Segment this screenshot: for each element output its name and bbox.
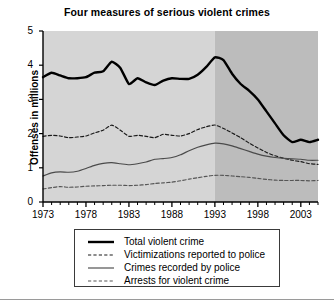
x-tick-label: 1978 — [66, 209, 106, 220]
legend-swatch-dashed-line-icon — [87, 275, 115, 287]
legend-item: Victimizations reported to police — [75, 248, 281, 261]
background-bands — [43, 31, 318, 202]
legend-label: Arrests for violent crime — [124, 275, 229, 287]
legend-item: Crimes recorded by police — [75, 261, 281, 274]
y-tick-label: 3 — [19, 93, 33, 104]
x-tick-label: 1973 — [23, 209, 63, 220]
y-tick-label: 2 — [19, 128, 33, 139]
bottom-divider — [0, 299, 334, 300]
legend-label: Total violent crime — [124, 236, 204, 248]
x-tick-label: 1983 — [109, 209, 149, 220]
y-tick-label: 5 — [19, 25, 33, 36]
x-tick-label: 1988 — [152, 209, 192, 220]
legend-swatch-dashed-line-icon — [87, 249, 115, 261]
legend-item: Arrests for violent crime — [75, 274, 281, 287]
x-tick-label: 1998 — [238, 209, 278, 220]
y-tick-label: 1 — [19, 162, 33, 173]
background-band-0 — [43, 31, 215, 202]
background-band-1 — [215, 31, 318, 202]
chart-figure: Four measures of serious violent crimes … — [0, 0, 334, 306]
legend-label: Crimes recorded by police — [124, 262, 240, 274]
y-tick-label: 0 — [19, 196, 33, 207]
x-tick-label: 2003 — [281, 209, 321, 220]
chart-legend: Total violent crimeVictimizations report… — [74, 229, 280, 287]
x-tick-label: 1993 — [195, 209, 235, 220]
legend-swatch-solid-line-icon — [87, 262, 115, 274]
y-tick-label: 4 — [19, 59, 33, 70]
legend-item: Total violent crime — [75, 235, 281, 248]
legend-swatch-solid-line-icon — [87, 236, 115, 248]
legend-label: Victimizations reported to police — [124, 249, 265, 261]
